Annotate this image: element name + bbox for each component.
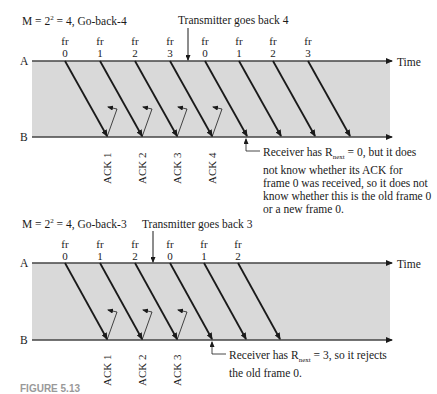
- frame-label: fr0: [55, 238, 75, 262]
- transmitter-note: Transmitter goes back 3: [142, 218, 252, 230]
- station-a-label: A: [20, 257, 28, 269]
- frame-label: fr2: [228, 238, 248, 262]
- ack-label: ACK 4: [206, 153, 218, 184]
- frame-label: fr0: [160, 238, 180, 262]
- frame-label: fr1: [194, 238, 214, 262]
- ack-label: ACK 1: [101, 153, 113, 184]
- ack-label: ACK 1: [101, 355, 113, 386]
- ack-label: ACK 2: [136, 355, 148, 386]
- time-axis-label: Time: [397, 258, 421, 270]
- ack-label: ACK 3: [171, 355, 183, 386]
- frame-label: fr2: [125, 238, 145, 262]
- receiver-note: Receiver has Rnext = 3, so it rejects th…: [229, 349, 387, 380]
- diagram-title: M = 22 = 4, Go-back-3: [22, 215, 127, 230]
- ack-label: ACK 3: [171, 153, 183, 184]
- station-b-label: B: [20, 334, 28, 346]
- ack-label: ACK 2: [136, 153, 148, 184]
- frame-label: fr1: [90, 238, 110, 262]
- figure-caption: FIGURE 5.13: [20, 383, 80, 394]
- receiver-note: Receiver has Rnext = 0, but it does not …: [263, 146, 431, 216]
